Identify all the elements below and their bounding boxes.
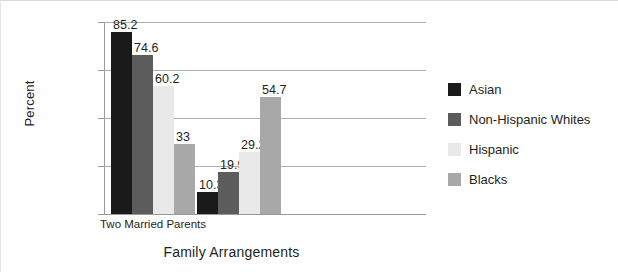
bar: [218, 172, 239, 214]
bar-value-label: 33: [176, 131, 190, 144]
legend-item: Blacks: [448, 164, 618, 194]
bar: [239, 152, 260, 214]
bar-series-container: 85.274.660.23310.319.929.254.7: [104, 22, 426, 214]
legend-swatch-icon: [448, 173, 461, 186]
plot-area: 022.54567.590 85.274.660.23310.319.929.2…: [104, 22, 426, 214]
bar-value-label: 54.7: [262, 84, 286, 97]
legend-item-label: Blacks: [469, 172, 507, 187]
gridline: [104, 214, 426, 215]
chart-legend: AsianNon-Hispanic WhitesHispanicBlacks: [448, 74, 618, 194]
x-axis-title: Family Arrangements: [1, 244, 462, 260]
x-axis-category-label: Two Married Parents: [93, 218, 213, 230]
bar-value-label: 60.2: [155, 73, 179, 86]
legend-item-label: Non-Hispanic Whites: [469, 112, 590, 127]
legend-item-label: Asian: [469, 82, 502, 97]
bar: [197, 192, 218, 214]
legend-item: Non-Hispanic Whites: [448, 104, 618, 134]
bar: [111, 32, 132, 214]
legend-item: Asian: [448, 74, 618, 104]
legend-swatch-icon: [448, 143, 461, 156]
y-axis-title: Percent: [22, 49, 37, 159]
bar: [174, 144, 195, 214]
y-axis-tick: [98, 214, 104, 215]
bar-value-label: 74.6: [134, 42, 158, 55]
bar: [260, 97, 281, 214]
legend-item-label: Hispanic: [469, 142, 519, 157]
legend-swatch-icon: [448, 113, 461, 126]
legend-swatch-icon: [448, 83, 461, 96]
bar: [132, 55, 153, 214]
bar: [153, 86, 174, 214]
bar-chart-figure: Percent 022.54567.590 85.274.660.23310.3…: [0, 0, 618, 272]
legend-item: Hispanic: [448, 134, 618, 164]
bar-value-label: 85.2: [113, 19, 137, 32]
